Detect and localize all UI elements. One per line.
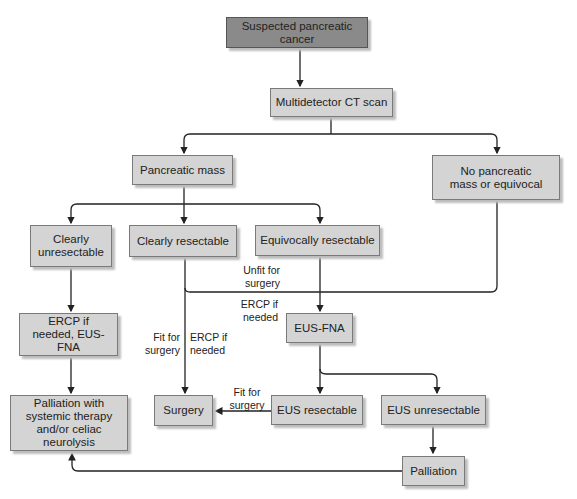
- edge-ct-to-pancreatic-mass: [184, 134, 331, 153]
- edge-palliation-to-palliation-systemic: [72, 454, 402, 471]
- node-label: Palliation with systemic therapy and/or …: [21, 397, 117, 449]
- edge-label-ercp-if-needed-upper: ERCP if needed: [222, 298, 278, 324]
- edge-label-fit-for-surgery-eus: Fit for surgery: [225, 386, 269, 412]
- node-label: EUS unresectable: [387, 404, 480, 417]
- node-suspected-pancreatic-cancer: Suspected pancreatic cancer: [226, 17, 368, 48]
- node-eus-fna: EUS-FNA: [286, 313, 353, 343]
- node-palliation: Palliation: [402, 456, 465, 486]
- node-ercp-eus-fna: ERCP if needed, EUS-FNA: [19, 313, 118, 356]
- node-surgery: Surgery: [154, 395, 213, 426]
- node-label: EUS-FNA: [294, 322, 344, 335]
- node-label: Clearly resectable: [137, 235, 229, 248]
- node-equivocally-resectable: Equivocally resectable: [255, 225, 380, 256]
- node-multidetector-ct-scan: Multidetector CT scan: [270, 88, 393, 117]
- node-label: Multidetector CT scan: [276, 96, 388, 109]
- node-eus-resectable: EUS resectable: [271, 395, 363, 425]
- node-palliation-systemic-therapy: Palliation with systemic therapy and/or …: [10, 395, 128, 451]
- edge-label-unfit-for-surgery: Unfit for surgery: [222, 264, 280, 290]
- node-clearly-unresectable: Clearly unresectable: [30, 225, 112, 267]
- node-label: Clearly unresectable: [38, 233, 104, 259]
- edge-label-fit-for-surgery-left: Fit for surgery: [138, 331, 180, 357]
- node-label: Palliation: [410, 465, 457, 478]
- node-label: ERCP if needed, EUS-FNA: [30, 315, 107, 354]
- node-label: Suspected pancreatic cancer: [227, 20, 367, 46]
- edge-eus-fna-to-eus-unresectable: [320, 369, 437, 393]
- edge-mass-to-clearly-unresectable: [71, 204, 184, 223]
- edge-mass-to-equivocally-resectable: [184, 204, 320, 223]
- node-label: Pancreatic mass: [140, 164, 225, 177]
- node-clearly-resectable: Clearly resectable: [129, 225, 237, 257]
- edge-ct-to-no-mass: [331, 134, 497, 153]
- node-eus-unresectable: EUS unresectable: [381, 395, 486, 425]
- node-no-pancreatic-mass: No pancreatic mass or equivocal: [432, 155, 560, 200]
- node-label: No pancreatic mass or equivocal: [447, 165, 545, 191]
- edge-label-ercp-if-needed-lower: ERCP if needed: [190, 331, 234, 357]
- node-label: EUS resectable: [277, 404, 357, 417]
- node-label: Equivocally resectable: [260, 234, 374, 247]
- node-pancreatic-mass: Pancreatic mass: [132, 155, 233, 185]
- node-label: Surgery: [163, 404, 203, 417]
